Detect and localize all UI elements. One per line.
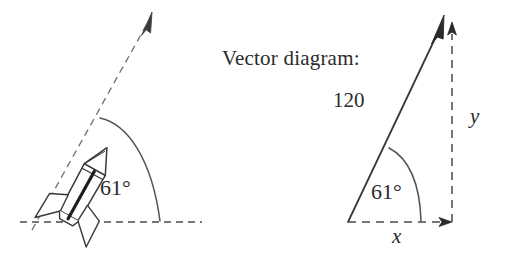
angle-label-right: 61° xyxy=(371,179,402,205)
angle-arc-left xyxy=(100,118,160,221)
x-component-label: x xyxy=(392,224,401,249)
y-component-label: y xyxy=(470,104,479,129)
diagram-svg xyxy=(0,0,509,253)
angle-label-left: 61° xyxy=(100,175,131,201)
figure-canvas: 61° Vector diagram: 120 61° x y xyxy=(0,0,509,253)
vector-diagram-heading: Vector diagram: xyxy=(222,46,360,71)
y-component-arrowhead-icon xyxy=(448,22,457,35)
resultant-vector-arrowhead-icon xyxy=(432,15,445,44)
rocket-launch-panel xyxy=(20,12,202,247)
x-component-arrowhead-icon xyxy=(439,218,452,227)
magnitude-label: 120 xyxy=(333,88,365,113)
trajectory-arrowhead-icon xyxy=(142,12,153,36)
vector-diagram-panel xyxy=(348,15,456,227)
